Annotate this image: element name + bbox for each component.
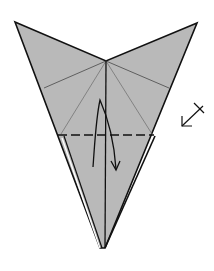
origami-diagram (0, 0, 214, 271)
repeat-behind-icon (182, 103, 204, 126)
